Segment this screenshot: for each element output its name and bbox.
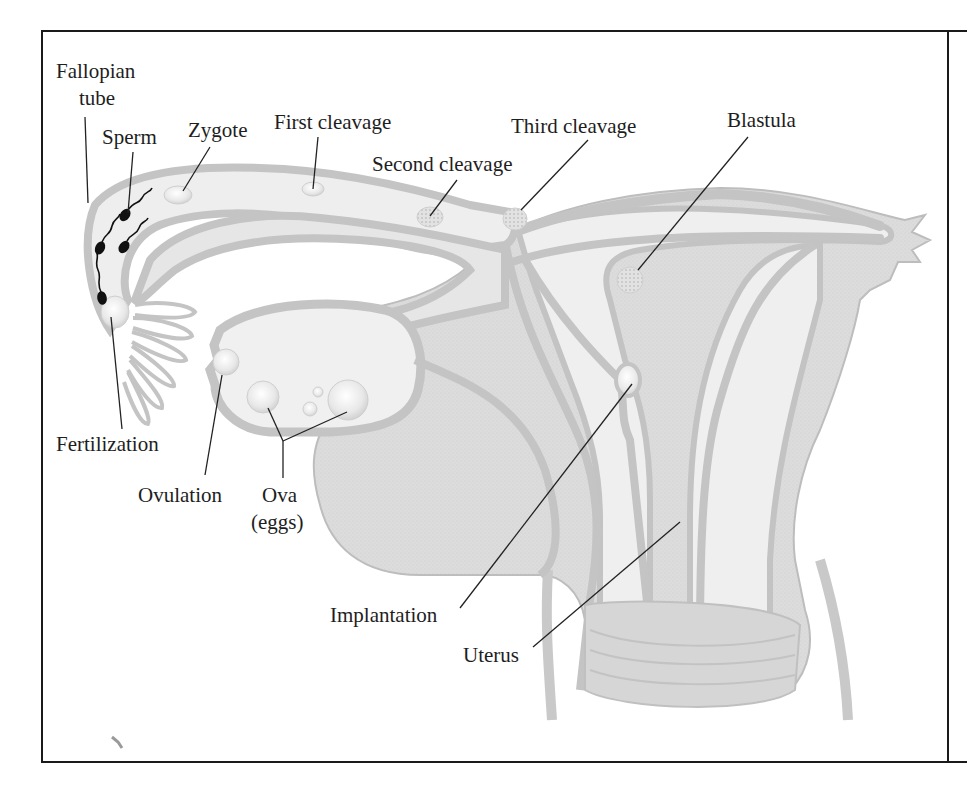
second-cleavage-cell — [417, 207, 443, 227]
label-third-cleavage: Third cleavage — [511, 114, 636, 138]
leader-fertilization — [111, 317, 122, 429]
reproductive-tract-diagram — [0, 0, 969, 796]
label-fallopian-tube-line1: Fallopian — [56, 59, 135, 83]
label-second-cleavage: Second cleavage — [372, 152, 513, 176]
label-ova: Ova — [262, 483, 297, 507]
zygote-cell — [164, 186, 192, 204]
ovulated-egg — [213, 349, 239, 375]
label-fertilization: Fertilization — [56, 432, 159, 456]
third-cleavage-cell — [503, 208, 527, 230]
stray-mark — [112, 737, 122, 748]
implanted-embryo — [616, 364, 640, 396]
leader-fallopian-tube — [85, 117, 88, 203]
leader-third-cleavage — [521, 140, 588, 210]
ovum-small-1 — [313, 387, 323, 397]
label-ova-eggs: (eggs) — [251, 510, 303, 534]
label-blastula: Blastula — [727, 108, 796, 132]
label-implantation: Implantation — [330, 603, 437, 627]
ovum-2 — [328, 380, 368, 420]
ovum-small-2 — [303, 402, 317, 416]
label-fallopian-tube-line2: tube — [79, 86, 115, 110]
label-ovulation: Ovulation — [138, 483, 222, 507]
label-first-cleavage: First cleavage — [274, 110, 391, 134]
label-sperm: Sperm — [102, 125, 157, 149]
label-uterus: Uterus — [463, 643, 519, 667]
label-zygote: Zygote — [188, 118, 247, 142]
blastula-cell — [617, 267, 643, 293]
ovum-1 — [247, 381, 279, 413]
